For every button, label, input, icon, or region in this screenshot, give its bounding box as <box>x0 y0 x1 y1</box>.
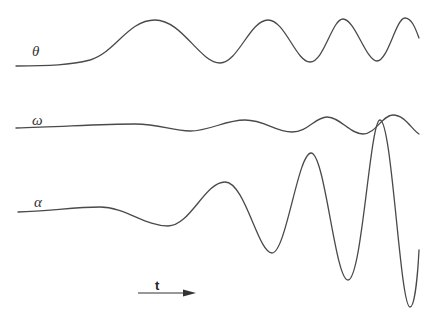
alpha-label: α <box>34 195 42 210</box>
omega-label: ω <box>32 113 43 128</box>
theta-curve <box>16 18 419 66</box>
time-arrow-icon <box>138 290 196 297</box>
phase-response-figure <box>0 0 431 319</box>
theta-label: θ <box>32 44 39 59</box>
time-axis-label: t <box>155 279 159 292</box>
omega-curve <box>16 115 419 134</box>
alpha-curve <box>18 120 419 307</box>
